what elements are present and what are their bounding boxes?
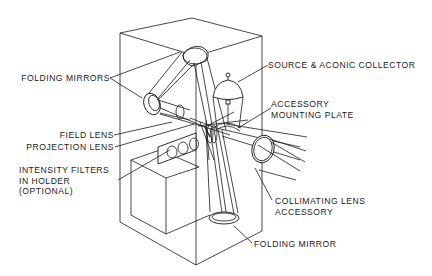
label-folding-mirrors: FOLDING MIRRORS — [21, 73, 110, 84]
label-intensity-filters-line2: IN HOLDER — [19, 176, 70, 187]
inner-compartment — [131, 150, 210, 234]
label-intensity-filters-line3: (OPTIONAL) — [19, 186, 73, 197]
label-collimating-line2: ACCESSORY — [275, 207, 333, 218]
label-collimating-line1: COLLIMATING LENS — [275, 196, 365, 207]
label-field-lens: FIELD LENS — [60, 130, 114, 141]
label-intensity-filters-line1: INTENSITY FILTERS — [19, 165, 109, 176]
top-folding-mirror — [183, 46, 208, 66]
label-accessory-plate-line2: MOUNTING PLATE — [271, 110, 354, 121]
label-accessory-plate-line1: ACCESSORY — [271, 99, 329, 110]
label-projection-lens: PROJECTION LENS — [26, 142, 114, 153]
beam-paths-lower — [206, 128, 238, 214]
bottom-folding-mirror — [209, 212, 239, 224]
beam-paths-upper — [145, 52, 226, 130]
optical-diagram: FOLDING MIRRORS FIELD LENS PROJECTION LE… — [0, 0, 432, 276]
label-folding-mirror: FOLDING MIRROR — [254, 239, 336, 250]
label-source-collector: SOURCE & ACONIC COLLECTOR — [268, 60, 415, 71]
source-collector — [213, 73, 243, 128]
intensity-filters — [158, 133, 199, 164]
